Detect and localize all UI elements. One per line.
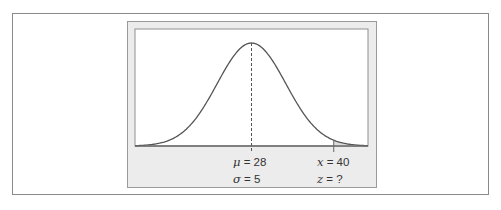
sigma-symbol: σ	[233, 172, 241, 186]
z-value: = ?	[326, 173, 342, 185]
z-symbol: z	[317, 172, 323, 186]
sigma-annotation: σ = 5	[233, 174, 260, 186]
sigma-value: = 5	[244, 173, 260, 185]
mu-annotation: μ = 28	[233, 157, 266, 169]
mu-symbol: μ	[233, 155, 240, 169]
x-value: = 40	[327, 156, 350, 168]
z-annotation: z = ?	[317, 174, 343, 186]
x-annotation: x = 40	[317, 157, 349, 169]
mu-value: = 28	[244, 156, 267, 168]
x-symbol: x	[317, 155, 324, 169]
